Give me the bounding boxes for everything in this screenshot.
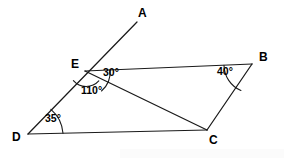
vertex-label-d: D [12,131,21,143]
angle-label-edc: 35° [45,113,61,124]
angle-label-ebc: 40° [217,66,233,77]
geometry-canvas [0,0,284,158]
vertex-label-c: C [209,134,218,146]
segment-E-C [85,71,207,130]
vertex-label-e: E [71,58,79,70]
vertex-label-a: A [138,7,147,19]
angle-label-bec: 30° [103,67,119,78]
geometry-diagram: A B C D E 30° 110° 35° 40° [0,0,284,158]
angle-label-dec: 110° [81,85,102,96]
bottom-edge-tint [120,149,284,158]
segment-D-C [28,130,207,134]
vertex-label-b: B [259,51,268,63]
